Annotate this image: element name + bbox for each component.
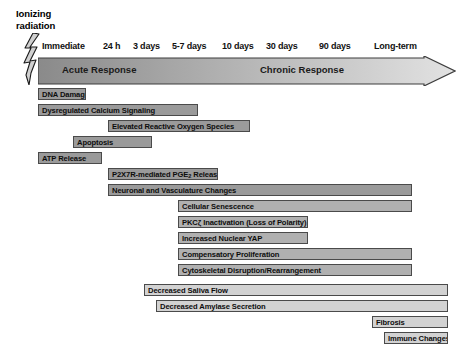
event-bar-label: Neuronal and Vasculature Changes	[109, 186, 236, 195]
event-bar: Decreased Saliva Flow	[144, 284, 448, 296]
event-bar: Dysregulated Calcium Signaling	[38, 104, 198, 116]
event-bar: Apoptosis	[73, 136, 152, 148]
event-bar-label: Immune Changes	[385, 334, 448, 343]
event-bar: Cellular Senescence	[178, 200, 412, 212]
timeline-tick-0: Immediate	[42, 41, 85, 51]
event-bar-label: Compensatory Proliferation	[179, 250, 279, 259]
event-bar: Fibrosis	[372, 316, 448, 328]
response-phase-arrow: Acute Response Chronic Response	[38, 56, 456, 86]
event-bar: Neuronal and Vasculature Changes	[108, 184, 412, 196]
event-bar: Immune Changes	[384, 332, 448, 344]
timeline-tick-5: 30 days	[266, 41, 298, 51]
timeline-tick-3: 5-7 days	[172, 41, 206, 51]
timeline-tick-6: 90 days	[319, 41, 351, 51]
event-bar-label: Increased Nuclear YAP	[179, 234, 262, 243]
event-bar: Cytoskeletal Disruption/Rearrangement	[178, 264, 412, 276]
ionizing-radiation-label: Ionizing radiation	[16, 8, 55, 31]
event-bar: PKCζ Inactivation (Loss of Polarity)	[178, 216, 308, 228]
event-bar-label: Decreased Saliva Flow	[145, 286, 228, 295]
event-bar-label: Fibrosis	[373, 318, 405, 327]
timeline-tick-7: Long-term	[374, 41, 417, 51]
event-bar: Decreased Amylase Secretion	[156, 300, 448, 312]
timeline-tick-4: 10 days	[222, 41, 254, 51]
event-bar-label: Elevated Reactive Oxygen Species	[109, 122, 234, 131]
event-bar-label: Decreased Amylase Secretion	[157, 302, 266, 311]
event-bar-label: P2X7R-mediated PGE2 Release	[109, 170, 218, 179]
event-bar: P2X7R-mediated PGE2 Release	[108, 168, 218, 180]
event-bar-label: PKCζ Inactivation (Loss of Polarity)	[179, 218, 306, 227]
event-bar: Compensatory Proliferation	[178, 248, 412, 260]
event-bar: Elevated Reactive Oxygen Species	[108, 120, 250, 132]
event-bar-label: Cellular Senescence	[179, 202, 254, 211]
event-bar-label: ATP Release	[39, 154, 86, 163]
phase-label-acute: Acute Response	[62, 64, 136, 75]
event-bar-label: Apoptosis	[74, 138, 113, 147]
event-bar-label: Dysregulated Calcium Signaling	[39, 106, 155, 115]
timeline-tick-2: 3 days	[133, 41, 160, 51]
event-bar: DNA Damage	[38, 88, 86, 100]
event-bar: Increased Nuclear YAP	[178, 232, 308, 244]
radiation-timeline-diagram: Ionizing radiation Immediate24 h3 days5-…	[0, 0, 462, 353]
phase-label-chronic: Chronic Response	[260, 64, 344, 75]
event-bar-label: Cytoskeletal Disruption/Rearrangement	[179, 266, 321, 275]
event-bar-label: DNA Damage	[39, 90, 86, 99]
event-bar: ATP Release	[38, 152, 102, 164]
timeline-tick-1: 24 h	[103, 41, 120, 51]
